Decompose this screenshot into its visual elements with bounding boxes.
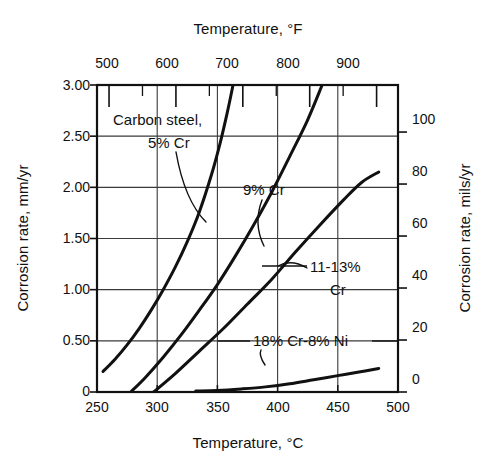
chart-canvas: Temperature, °F Temperature, °C Corrosio…: [0, 0, 491, 470]
eighteen-cr-eight-ni-leader: [260, 350, 265, 365]
bottom-tick-label: 250: [85, 399, 109, 415]
left-axis-title: Corrosion rate, mm/yr: [14, 164, 31, 311]
bottom-axis-title: Temperature, °C: [193, 434, 304, 451]
top-tick-label: 700: [215, 55, 239, 71]
eleven-thirteen-cr-label-line2: Cr: [330, 281, 346, 298]
left-tick-label: 0: [82, 383, 90, 399]
nine-cr-annotation: 9% Cr: [243, 181, 285, 198]
carbon-steel-label-line1: Carbon steel,: [113, 111, 202, 128]
left-tick-label: 3.00: [63, 77, 90, 93]
right-axis-title: Corrosion rate, mils/yr: [456, 164, 473, 313]
bottom-tick-label: 400: [266, 399, 290, 415]
right-tick-label: 80: [412, 163, 428, 179]
bottom-tick-label: 450: [326, 399, 350, 415]
top-tick-label: 600: [155, 55, 179, 71]
eighteen-cr-eight-ni-label: 18% Cr-8% Ni: [253, 332, 348, 349]
right-tick-labels: 100 80 60 40 20 0: [412, 111, 436, 387]
eighteen-cr-eight-ni-annotation: 18% Cr-8% Ni: [253, 332, 348, 349]
left-tick-labels: 3.00 2.50 2.00 1.50 1.00 0.50 0: [63, 77, 90, 399]
right-tick-label: 0: [412, 371, 420, 387]
corrosion-rate-chart: Temperature, °F Temperature, °C Corrosio…: [0, 0, 491, 470]
bottom-tick-label: 350: [206, 399, 230, 415]
top-tick-label: 500: [95, 55, 119, 71]
series-curve-3: [196, 368, 379, 391]
left-tick-label: 1.00: [63, 281, 90, 297]
nine-cr-label: 9% Cr: [243, 181, 285, 198]
bottom-tick-label: 300: [145, 399, 169, 415]
eleven-thirteen-cr-annotation: 11-13% Cr: [310, 258, 361, 298]
right-tick-label: 20: [412, 319, 428, 335]
right-tick-label: 100: [412, 111, 436, 127]
left-tick-label: 1.50: [63, 230, 90, 246]
right-tick-label: 60: [412, 215, 428, 231]
right-tick-label: 40: [412, 267, 428, 283]
left-tick-label: 0.50: [63, 332, 90, 348]
left-tick-label: 2.00: [63, 179, 90, 195]
eleven-thirteen-cr-label-line1: 11-13%: [310, 258, 361, 275]
carbon-steel-label-line2: 5% Cr: [148, 134, 190, 151]
top-tick-labels: 500 600 700 800 900: [95, 55, 360, 71]
bottom-tick-labels: 250 300 350 400 450 500: [85, 399, 410, 415]
top-axis-title: Temperature, °F: [193, 20, 302, 37]
bottom-tick-label: 500: [386, 399, 410, 415]
top-tick-label: 800: [276, 55, 300, 71]
top-tick-label: 900: [336, 55, 360, 71]
left-tick-label: 2.50: [63, 128, 90, 144]
